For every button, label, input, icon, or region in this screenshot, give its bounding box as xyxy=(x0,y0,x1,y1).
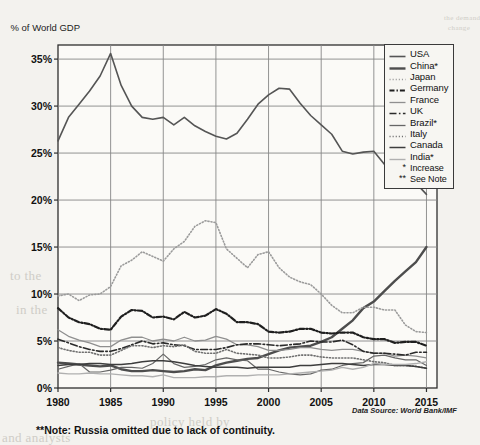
legend-swatch-line xyxy=(389,94,406,105)
legend-swatch-line xyxy=(389,128,406,139)
legend-item-brazil[interactable]: Brazil* xyxy=(389,116,448,127)
y-tick-label: 35% xyxy=(8,53,52,65)
legend-label: USA xyxy=(410,48,429,59)
y-tick-label: 25% xyxy=(8,147,52,159)
legend-note-marker: * xyxy=(389,162,406,173)
x-tick-label: 2000 xyxy=(243,396,295,408)
legend-swatch-line xyxy=(389,105,406,116)
legend-item-uk[interactable]: UK xyxy=(389,105,448,116)
legend-item-japan[interactable]: Japan xyxy=(389,71,448,82)
legend-swatch-line xyxy=(389,60,406,71)
legend-label: China* xyxy=(410,60,438,71)
legend-label: Canada xyxy=(410,139,443,150)
legend-item-india[interactable]: India* xyxy=(389,151,448,162)
legend-item-italy[interactable]: Italy xyxy=(389,128,448,139)
legend-swatch-line xyxy=(389,82,406,93)
legend-swatch-line xyxy=(389,71,406,82)
x-tick-label: 1990 xyxy=(137,396,189,408)
y-tick-label: 0% xyxy=(8,382,52,394)
legend-note-label: See Note xyxy=(410,174,447,184)
legend-label: Italy xyxy=(410,128,427,139)
chart-legend: USAChina*JapanGermanyFranceUKBrazil*Ital… xyxy=(384,44,454,189)
legend-item-germany[interactable]: Germany xyxy=(389,82,448,93)
legend-note-see-note: **See Note xyxy=(389,173,448,184)
y-tick-label: 15% xyxy=(8,241,52,253)
x-tick-label: 1980 xyxy=(32,396,84,408)
legend-item-canada[interactable]: Canada xyxy=(389,139,448,150)
x-tick-label: 2005 xyxy=(295,396,347,408)
legend-item-france[interactable]: France xyxy=(389,94,448,105)
y-tick-label: 5% xyxy=(8,335,52,347)
y-tick-label: 30% xyxy=(8,100,52,112)
y-tick-label: 10% xyxy=(8,288,52,300)
footnote: **Note: Russia omitted due to lack of co… xyxy=(36,424,275,436)
legend-label: UK xyxy=(410,105,423,116)
legend-swatch-line xyxy=(389,151,406,162)
legend-note-label: Increase xyxy=(410,163,444,173)
legend-swatch-line xyxy=(389,117,406,128)
x-tick-label: 2010 xyxy=(348,396,400,408)
legend-label: France xyxy=(410,94,439,105)
legend-label: Japan xyxy=(410,71,435,82)
x-tick-label: 2015 xyxy=(400,396,452,408)
legend-label: India* xyxy=(410,151,434,162)
legend-item-usa[interactable]: USA xyxy=(389,48,448,59)
x-tick-label: 1985 xyxy=(85,396,137,408)
legend-note-marker: ** xyxy=(389,173,406,184)
legend-swatch-line xyxy=(389,48,406,59)
legend-label: Brazil* xyxy=(410,117,437,128)
legend-item-china[interactable]: China* xyxy=(389,59,448,70)
x-tick-label: 1995 xyxy=(190,396,242,408)
y-tick-label: 20% xyxy=(8,194,52,206)
legend-note-increase: *Increase xyxy=(389,162,448,173)
legend-label: Germany xyxy=(410,82,448,93)
legend-swatch-line xyxy=(389,139,406,150)
